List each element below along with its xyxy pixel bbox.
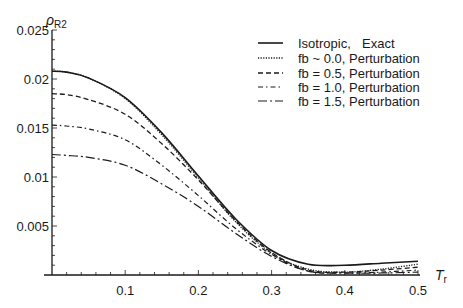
- legend-item: fb = 0.5,Perturbation: [258, 66, 420, 81]
- series-line-dashdot: [52, 125, 418, 273]
- y-tick-label: 0.015: [16, 121, 49, 136]
- legend-item: Isotropic,Exact: [258, 36, 395, 51]
- y-ticks: 0.0050.010.0150.020.025: [16, 23, 57, 265]
- y-axis-symbol: ρ: [45, 12, 54, 28]
- legend-label-method: Perturbation: [349, 94, 420, 109]
- legend-label: fb ~ 0.0,: [298, 51, 345, 66]
- line-chart: 0.0050.010.0150.020.025 0.10.20.30.40.5 …: [0, 0, 463, 308]
- x-tick-label: 0.3: [263, 283, 281, 298]
- y-tick-label: 0.025: [16, 23, 49, 38]
- legend-label: Isotropic,: [298, 36, 351, 51]
- y-axis-title: ρR2: [45, 12, 67, 30]
- legend-label: fb = 1.5,: [298, 94, 345, 109]
- x-axis-subscript: r: [444, 274, 448, 285]
- x-ticks: 0.10.20.30.40.5: [67, 270, 427, 298]
- y-tick-label: 0.01: [24, 170, 49, 185]
- legend-label-method: Perturbation: [349, 66, 420, 81]
- x-tick-label: 0.4: [336, 283, 354, 298]
- legend-label-method: Perturbation: [349, 80, 420, 95]
- series-line-longdashdot: [52, 155, 418, 274]
- legend-label: fb = 1.0,: [298, 80, 345, 95]
- legend-label: fb = 0.5,: [298, 66, 345, 81]
- legend: Isotropic,Exactfb ~ 0.0,Perturbationfb =…: [258, 36, 420, 109]
- y-tick-label: 0.02: [24, 72, 49, 87]
- y-tick-label: 0.005: [16, 219, 49, 234]
- x-tick-label: 0.1: [116, 283, 134, 298]
- legend-label-method: Perturbation: [349, 51, 420, 66]
- legend-item: fb ~ 0.0,Perturbation: [258, 51, 420, 66]
- legend-label-method: Exact: [362, 36, 395, 51]
- x-tick-label: 0.5: [409, 283, 427, 298]
- y-axis-subscript: R2: [54, 19, 67, 30]
- series-line-dashed: [52, 94, 418, 273]
- legend-item: fb = 1.5,Perturbation: [258, 94, 420, 109]
- x-axis-title: Tr: [435, 267, 448, 285]
- legend-item: fb = 1.0,Perturbation: [258, 80, 420, 95]
- x-tick-label: 0.2: [189, 283, 207, 298]
